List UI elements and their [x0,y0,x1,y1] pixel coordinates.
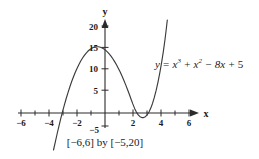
equation-plus-2: + [228,58,234,70]
equation-minus: − [205,58,211,70]
y-tick-label-15: 15 [89,43,99,53]
x-tick-label--2: −2 [72,118,82,128]
x-tick-label--6: −6 [16,118,26,128]
equation-annotation: y = x3 + x2 − 8x + 5 [155,57,243,70]
x-tick-label-2: 2 [131,118,136,128]
x-tick-label-4: 4 [159,118,164,128]
x-tick-label-6: 6 [187,118,192,128]
equation-term2-exponent: 2 [199,57,203,65]
viewing-window-caption: [−6,6] by [−5,20] [0,136,210,148]
equation-term3: 8x [215,58,226,70]
cubic-curve [54,20,168,150]
y-axis-arrow-icon [102,19,109,28]
y-axis-label: y [103,6,108,17]
equation-term1-exponent: 3 [178,57,182,65]
x-tick-label--4: −4 [44,118,54,128]
x-axis-label: x [204,108,209,119]
y-tick-label-10: 10 [89,64,99,74]
equation-equals: = [163,58,169,70]
y-tick-label-20: 20 [89,22,99,32]
equation-lhs: y [155,58,160,70]
y-tick-label-5: 5 [94,86,99,96]
x-axis-arrow-icon [190,110,199,117]
equation-plus-1: + [184,58,190,70]
cubic-function-figure: −6 −4 −2 2 4 6 20 15 10 5 −5 y x y = x3 … [0,0,259,159]
y-tick-label--5: −5 [89,125,99,135]
equation-constant: 5 [238,58,244,70]
